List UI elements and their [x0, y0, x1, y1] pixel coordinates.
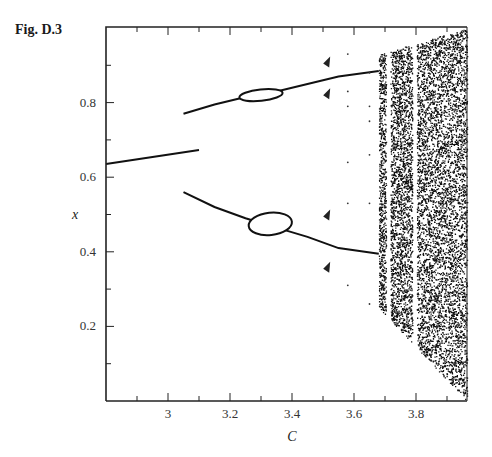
x-tick-label: 3.6	[346, 406, 363, 421]
chaotic-region	[379, 30, 469, 400]
y-tick-label: 0.2	[80, 318, 96, 333]
x-tick-label: 3.2	[222, 406, 238, 421]
axis-labels: 33.23.43.63.80.20.40.60.8	[80, 95, 424, 421]
y-tick-label: 0.6	[80, 169, 97, 184]
x-tick-label: 3.8	[408, 406, 424, 421]
y-tick-label: 0.4	[80, 244, 97, 259]
x-axis-title: C	[287, 429, 297, 444]
periodic-markers	[323, 53, 370, 305]
x-tick-label: 3.4	[284, 406, 301, 421]
y-tick-label: 0.8	[80, 95, 96, 110]
bifurcation-curves	[106, 71, 379, 254]
bifurcation-chart: 33.23.43.63.80.20.40.60.8 C x	[0, 0, 492, 457]
plot-axes	[106, 27, 467, 401]
y-axis-title: x	[71, 207, 79, 222]
x-tick-label: 3	[165, 406, 172, 421]
